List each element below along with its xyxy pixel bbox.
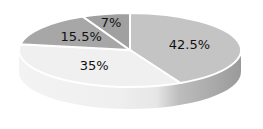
pie-chart: 42.5%35%15.5%7% (0, 0, 263, 129)
pie-slice-label: 35% (80, 58, 109, 73)
pie-slice-label: 15.5% (61, 29, 102, 44)
pie-slice-label: 7% (101, 15, 122, 30)
pie-slice-label: 42.5% (169, 37, 210, 52)
